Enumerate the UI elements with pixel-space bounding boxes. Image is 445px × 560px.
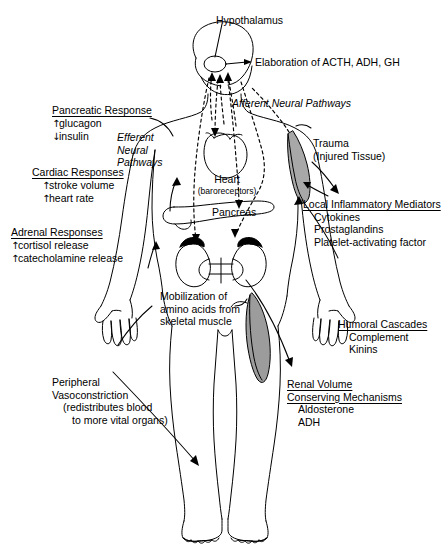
heart-label: Heart (baroreceptors)	[196, 173, 258, 196]
cardiac-item-1-text: heart rate	[49, 192, 94, 204]
up-arrow-icon: ↑	[11, 253, 18, 266]
adrenal-responses-panel: Adrenal Responses ↑cortisol release ↑cat…	[11, 226, 123, 266]
peripheral-line-4: to more vital organs)	[52, 414, 168, 427]
mobilization-line-2: amino acids from	[160, 303, 240, 316]
pancreatic-response-panel: Pancreatic Response ↑glucagon ↓insulin	[52, 104, 152, 144]
pancreatic-item-0-text: glucagon	[59, 117, 102, 129]
up-arrow-icon: ↑	[42, 180, 49, 193]
human-body-figure	[0, 0, 445, 560]
pancreatic-response-heading: Pancreatic Response	[52, 104, 152, 117]
local-inflammatory-item-0: Cytokines	[303, 211, 441, 224]
peripheral-line-2: Vasoconstriction	[52, 389, 168, 402]
local-inflammatory-heading: Local Inflammatory Mediators	[303, 198, 441, 211]
trauma-label: Trauma (Injured Tissue)	[313, 137, 385, 162]
mobilization-line-1: Mobilization of	[160, 290, 240, 303]
pancreatic-item-1-text: insulin	[59, 130, 89, 142]
hypothalamus-icon	[204, 56, 226, 72]
hypothalamus-leader-line	[215, 24, 222, 57]
peripheral-line-1: Peripheral	[52, 376, 168, 389]
adrenal-item-0: ↑cortisol release	[11, 239, 123, 253]
adrenal-item-1: ↑catecholamine release	[11, 252, 123, 266]
heart-icon	[204, 133, 247, 178]
hypothalamus-label: Hypothalamus	[216, 14, 283, 27]
elaboration-label: Elaboration of ACTH, ADH, GH	[255, 56, 400, 69]
down-arrow-icon: ↓	[52, 131, 59, 144]
mobilization-line-3: skeletal muscle	[160, 315, 240, 328]
local-inflammatory-panel: Local Inflammatory Mediators Cytokines P…	[303, 198, 441, 248]
local-inflammatory-item-2: Platelet-activating factor	[303, 236, 441, 249]
renal-item-1: ADH	[287, 416, 402, 429]
local-inflammatory-item-1: Prostaglandins	[303, 223, 441, 236]
afferent-neural-pathways-label: Afferent Neural Pathways	[232, 97, 351, 110]
humoral-item-1: Kinins	[338, 343, 427, 356]
cardiac-responses-panel: Cardiac Responses ↑stroke volume ↑heart …	[32, 166, 124, 206]
cardiac-item-0: ↑stroke volume	[32, 179, 124, 193]
trauma-line-2: (Injured Tissue)	[313, 150, 385, 163]
humoral-cascades-panel: Humoral Cascades Complement Kinins	[338, 318, 427, 356]
cardiac-item-0-text: stroke volume	[49, 179, 114, 191]
peripheral-vasoconstriction-panel: Peripheral Vasoconstriction (redistribut…	[52, 376, 168, 426]
peripheral-line-3: (redistributes blood	[52, 401, 168, 414]
pancreatic-item-1: ↓insulin	[52, 130, 152, 144]
cardiac-responses-heading: Cardiac Responses	[32, 166, 124, 179]
elaboration-arrow	[226, 59, 252, 65]
renal-volume-panel: Renal Volume Conserving Mechanisms Aldos…	[287, 378, 402, 428]
cardiac-item-1: ↑heart rate	[32, 192, 124, 206]
mobilization-panel: Mobilization of amino acids from skeleta…	[160, 290, 240, 328]
trauma-line-1: Trauma	[313, 137, 385, 150]
up-arrow-icon: ↑	[42, 193, 49, 206]
humoral-cascades-heading: Humoral Cascades	[338, 318, 427, 331]
humoral-item-0: Complement	[338, 331, 427, 344]
heart-label-sub: (baroreceptors)	[196, 186, 258, 196]
renal-volume-heading-1: Renal Volume	[287, 378, 402, 391]
pancreas-label: Pancreas	[212, 206, 256, 219]
diagram-canvas: Hypothalamus Elaboration of ACTH, ADH, G…	[0, 0, 445, 560]
renal-item-0: Aldosterone	[287, 403, 402, 416]
up-arrow-icon: ↑	[11, 240, 18, 253]
injured-tissue-icon	[288, 131, 310, 203]
renal-volume-heading-2: Conserving Mechanisms	[287, 391, 402, 404]
adrenal-responses-heading: Adrenal Responses	[11, 226, 123, 239]
kidneys-icon	[176, 237, 266, 286]
heart-label-main: Heart	[196, 173, 258, 186]
efferent-line-2: Neural	[117, 144, 163, 157]
adrenal-item-1-text: catecholamine release	[18, 252, 123, 264]
adrenal-item-0-text: cortisol release	[18, 239, 89, 251]
up-arrow-icon: ↑	[52, 118, 59, 131]
pancreatic-item-0: ↑glucagon	[52, 117, 152, 131]
